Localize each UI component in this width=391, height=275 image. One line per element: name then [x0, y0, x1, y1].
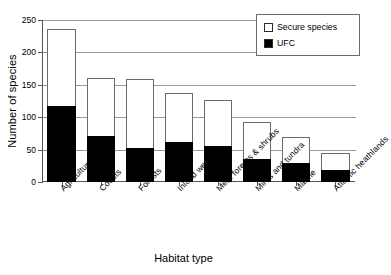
y-tick-label: 100	[2, 112, 36, 122]
y-tick-label: 150	[2, 80, 36, 90]
legend-label-ufc: UFC	[277, 38, 295, 48]
legend-swatch-secure-species-icon	[264, 23, 273, 32]
legend-item-secure-species: Secure species	[264, 19, 359, 35]
legend-swatch-ufc-icon	[264, 39, 273, 48]
x-axis-title: Habitat type	[0, 252, 367, 264]
bar-group	[87, 20, 115, 182]
y-tick-label: 0	[2, 177, 36, 187]
y-tick-label: 200	[2, 47, 36, 57]
y-tick-label: 50	[2, 145, 36, 155]
bar-group	[165, 20, 193, 182]
legend-item-ufc: UFC	[264, 35, 359, 51]
legend: Secure species UFC	[256, 14, 360, 56]
legend-label-secure-species: Secure species	[277, 22, 337, 32]
bar-group	[47, 20, 75, 182]
bar-group	[126, 20, 154, 182]
y-axis-tick-labels: 050100150200250	[0, 20, 36, 182]
x-axis-category-labels: AgricultureCoastsForestsInland wetlandsM…	[42, 186, 367, 256]
y-tick-label: 250	[2, 15, 36, 25]
